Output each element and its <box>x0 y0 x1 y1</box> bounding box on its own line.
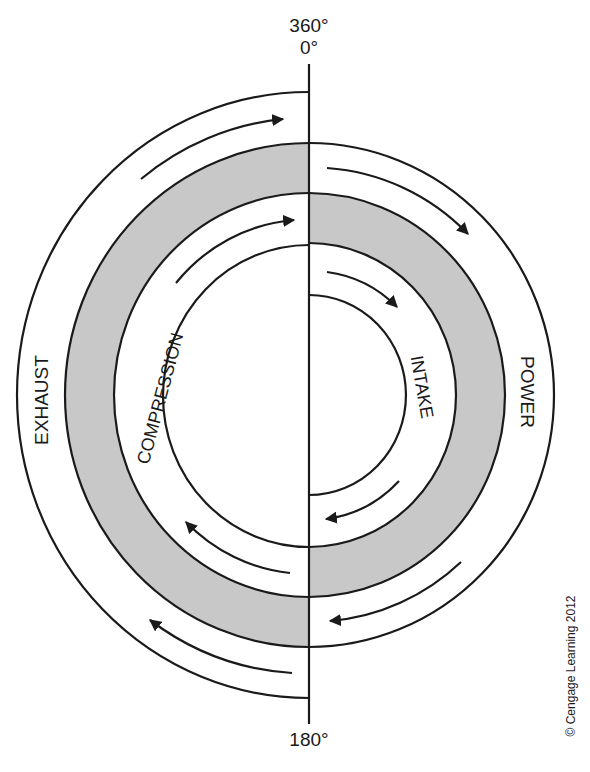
intake-arrow-top <box>327 272 397 307</box>
stroke-label-intake: INTAKE <box>407 354 438 420</box>
degree-label-0: 0° <box>300 37 318 58</box>
copyright-notice: © Cengage Learning 2012 <box>564 595 578 736</box>
four-stroke-cycle-diagram: 360° 0° 180° EXHAUST COMPRESSION INTAKE … <box>0 0 590 772</box>
stroke-label-power: POWER <box>517 356 538 428</box>
stroke-label-exhaust: EXHAUST <box>31 355 52 445</box>
compression-inner-arc <box>163 245 309 547</box>
intake-arrow-bottom <box>326 481 399 519</box>
intake-inner-arc <box>309 295 406 495</box>
stroke-label-compression: COMPRESSION <box>133 331 187 467</box>
shaded-band-left <box>65 143 309 647</box>
degree-label-180: 180° <box>289 729 328 750</box>
degree-label-360: 360° <box>289 15 328 36</box>
